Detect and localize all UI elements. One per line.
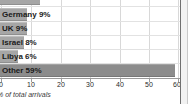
chart-viewport: Germany 9% UK 9% Israel 8% Libya 6% Othe… xyxy=(0,0,188,104)
bar-label-other: Other 59% xyxy=(2,64,42,77)
x-axis: 0 10 20 30 40 50 60 xyxy=(0,78,181,90)
x-tick-label-50: 50 xyxy=(145,81,153,88)
x-tick-label-0: 0 xyxy=(0,81,3,88)
bar-label-germany: Germany 9% xyxy=(2,8,50,21)
gridline-horizontal-1 xyxy=(0,6,181,7)
gridline-vertical-60 xyxy=(178,0,179,78)
bar-chart-plot-area: Germany 9% UK 9% Israel 8% Libya 6% Othe… xyxy=(0,0,181,78)
x-tick-label-30: 30 xyxy=(86,81,94,88)
bar-label-uk: UK 9% xyxy=(2,22,27,35)
x-tick-label-20: 20 xyxy=(57,81,65,88)
x-axis-label: % of total arrivals xyxy=(0,91,51,98)
bar-label-israel: Israel 8% xyxy=(2,36,37,49)
bar-label-libya: Libya 6% xyxy=(2,50,37,63)
x-tick-label-10: 10 xyxy=(27,81,35,88)
bar-cropped[interactable] xyxy=(0,0,40,5)
panel-outer-border xyxy=(187,0,188,104)
x-tick-label-40: 40 xyxy=(116,81,124,88)
